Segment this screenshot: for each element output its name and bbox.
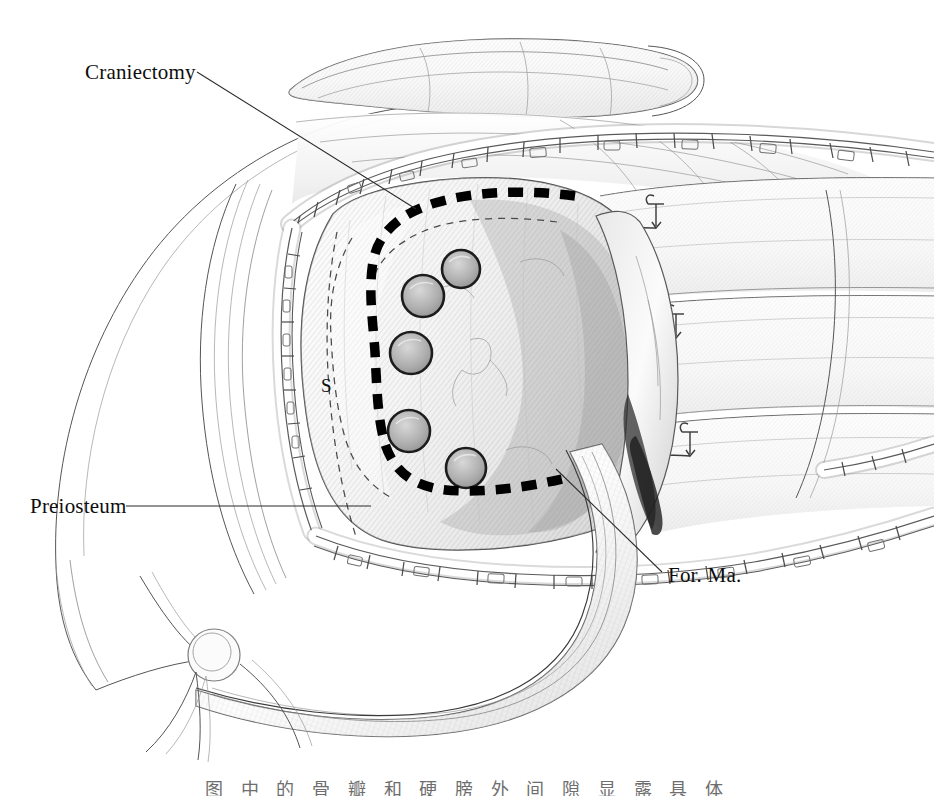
label-foramen-magnum: For. Ma. [668, 563, 741, 587]
figure-caption: 图 中 的 骨 瓣 和 硬 膀 外 间 隙 显 露 具 体 [0, 780, 934, 796]
label-sigmoid-sinus: S [321, 375, 332, 396]
label-craniectomy: Craniectomy [85, 60, 196, 84]
burr-hole [402, 275, 444, 317]
label-preiosteum: Preiosteum [30, 494, 127, 518]
burr-hole [388, 410, 430, 452]
burr-hole [390, 332, 432, 374]
anatomical-illustration: Craniectomy Preiosteum For. Ma. S [0, 0, 934, 796]
figure-root: Craniectomy Preiosteum For. Ma. S 图 中 的 … [0, 0, 934, 796]
